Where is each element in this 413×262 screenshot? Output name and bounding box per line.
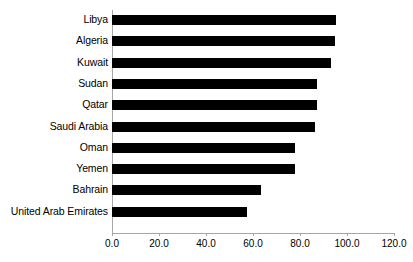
- tick-mark: [206, 233, 207, 236]
- bar: [112, 143, 295, 153]
- tick-mark: [159, 233, 160, 236]
- bar-chart: LibyaAlgeriaKuwaitSudanQatarSaudi Arabia…: [0, 0, 413, 262]
- bar-fill: [112, 100, 317, 110]
- category-label: Saudi Arabia: [50, 121, 108, 132]
- bar-fill: [112, 207, 247, 217]
- bar: [112, 164, 295, 174]
- tick-mark: [394, 233, 395, 236]
- category-label: Bahrain: [73, 184, 109, 195]
- bar-fill: [112, 185, 261, 195]
- bar: [112, 36, 335, 46]
- tick-label: 80.0: [290, 238, 309, 249]
- tick-label: 0.0: [105, 238, 119, 249]
- bar-fill: [112, 164, 295, 174]
- tick-mark: [112, 233, 113, 236]
- bar: [112, 185, 261, 195]
- category-label: Oman: [80, 142, 108, 153]
- bar: [112, 79, 317, 89]
- bar: [112, 15, 336, 25]
- bar-fill: [112, 36, 335, 46]
- tick-mark: [253, 233, 254, 236]
- tick-mark: [347, 233, 348, 236]
- bar-fill: [112, 79, 317, 89]
- category-label: Libya: [83, 14, 108, 25]
- bar-fill: [112, 58, 331, 68]
- bar-fill: [112, 143, 295, 153]
- tick-mark: [300, 233, 301, 236]
- category-label: Kuwait: [77, 57, 108, 68]
- tick-label: 100.0: [334, 238, 359, 249]
- bar: [112, 58, 331, 68]
- category-label: United Arab Emirates: [11, 206, 108, 217]
- category-label: Sudan: [78, 78, 108, 89]
- category-label: Qatar: [82, 99, 108, 110]
- tick-label: 60.0: [243, 238, 262, 249]
- bar: [112, 100, 317, 110]
- tick-label: 120.0: [381, 238, 406, 249]
- bar-fill: [112, 122, 315, 132]
- tick-label: 40.0: [196, 238, 215, 249]
- bar: [112, 207, 247, 217]
- category-label: Yemen: [76, 163, 108, 174]
- bar: [112, 122, 315, 132]
- tick-label: 20.0: [149, 238, 168, 249]
- bar-fill: [112, 15, 336, 25]
- category-label: Algeria: [76, 35, 108, 46]
